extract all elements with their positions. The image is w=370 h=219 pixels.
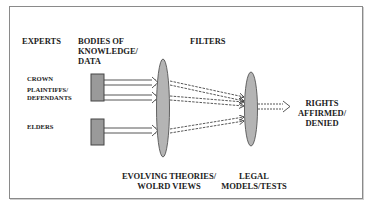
input-arrow-2 xyxy=(104,92,158,103)
input-arrow-1 xyxy=(104,77,158,88)
diagram-graphics xyxy=(0,0,370,219)
data-box-lower xyxy=(91,119,104,145)
filter-ellipse-legal-models xyxy=(245,72,258,146)
dashed-connector xyxy=(170,81,244,97)
dashed-connectors xyxy=(170,81,244,133)
data-box-upper xyxy=(91,74,104,101)
output-arrow xyxy=(258,101,290,112)
input-arrow-3 xyxy=(104,125,158,136)
filter-ellipse-evolving-theories xyxy=(157,59,170,157)
